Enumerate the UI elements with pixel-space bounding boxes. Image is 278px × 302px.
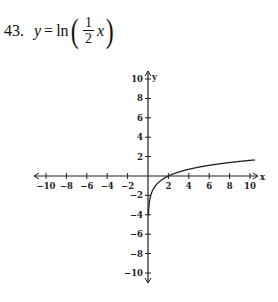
x-tick-label: 10 [244,181,256,191]
x-tick-label: −6 [80,181,93,191]
y-tick-label: 2 [137,152,143,162]
y-tick-label: 8 [137,93,143,103]
y-tick-label: 10 [131,74,143,84]
function-curve [148,160,254,215]
x-tick-label: −4 [101,181,114,191]
y-tick-label: 6 [137,113,143,123]
y-tick-label: −8 [130,249,143,259]
x-tick-label: −8 [60,181,73,191]
x-tick-label: 2 [165,181,171,191]
y-tick-label: −10 [124,268,143,278]
x-tick-label: 8 [227,181,233,191]
x-tick-label: −10 [37,181,56,191]
x-tick-label: 6 [206,181,212,191]
y-axis-label: y [151,72,158,82]
y-tick-label: −4 [130,210,143,220]
x-tick-label: 4 [186,181,192,191]
x-axis-label: x [260,172,266,182]
y-tick-label: −6 [130,229,143,239]
y-tick-label: 4 [137,132,143,142]
graph: −10−8−6−4−2246810108642−2−4−6−8−10xy [0,0,278,302]
y-tick-label: −2 [130,190,143,200]
